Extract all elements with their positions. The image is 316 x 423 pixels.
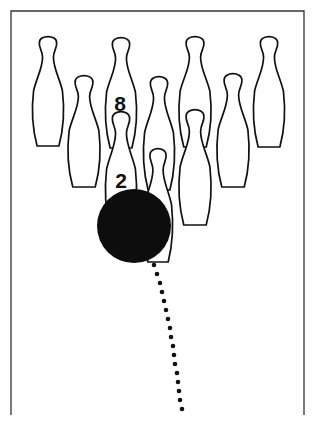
path-dot bbox=[172, 353, 177, 358]
path-dot bbox=[180, 407, 185, 412]
path-dot bbox=[168, 326, 173, 331]
path-dot bbox=[152, 263, 157, 268]
path-dot bbox=[155, 272, 160, 277]
path-dot bbox=[176, 380, 181, 385]
path-dot bbox=[177, 389, 182, 394]
path-dot bbox=[171, 344, 176, 349]
pin-label-8: 8 bbox=[114, 92, 126, 115]
path-dot bbox=[175, 371, 180, 376]
path-dot bbox=[158, 281, 163, 286]
path-dot bbox=[164, 308, 169, 313]
pin-7-icon bbox=[33, 37, 64, 146]
pin-6-icon bbox=[217, 74, 249, 187]
path-dot bbox=[166, 317, 171, 322]
ball-circle bbox=[97, 189, 171, 263]
bowling-ball-icon bbox=[97, 189, 171, 263]
pin-4-icon bbox=[68, 76, 100, 187]
ball-path-dots bbox=[152, 263, 185, 412]
path-dot bbox=[173, 362, 178, 367]
bowling-diagram: 8 2 bbox=[0, 0, 316, 423]
path-dot bbox=[160, 290, 165, 295]
pin-label-2: 2 bbox=[115, 169, 127, 192]
pin-10-icon bbox=[254, 37, 285, 147]
path-dot bbox=[178, 398, 183, 403]
path-dot bbox=[169, 335, 174, 340]
path-dot bbox=[162, 299, 167, 304]
